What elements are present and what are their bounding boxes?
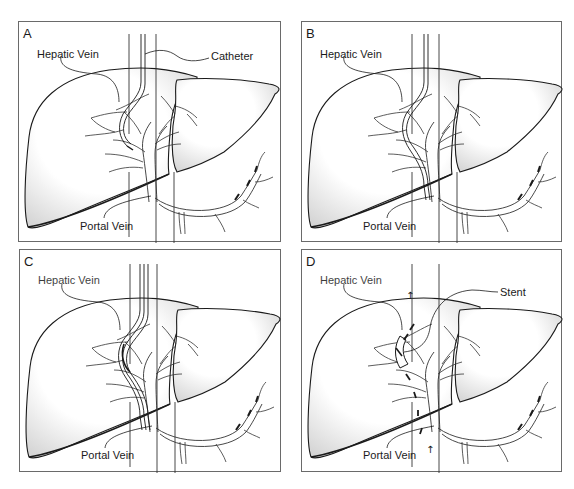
svg-text:↑: ↑ — [426, 444, 434, 455]
panel-a: A Hepatic Vein Catheter Portal Vein — [18, 21, 281, 242]
panel-letter: A — [23, 26, 32, 41]
panel-letter: D — [306, 254, 315, 269]
stent-label: Stent — [500, 286, 526, 298]
hepatic-vein-label: Hepatic Vein — [320, 274, 382, 286]
hepatic-vein-label: Hepatic Vein — [38, 274, 100, 286]
panel-b: B Hepatic Vein Portal Vein — [301, 21, 562, 242]
catheter-label: Catheter — [211, 50, 253, 62]
panel-letter: B — [306, 26, 315, 41]
svg-text:↑: ↑ — [406, 290, 414, 301]
panel-letter: C — [24, 254, 33, 269]
portal-vein-label: Portal Vein — [80, 220, 133, 232]
hepatic-vein-label: Hepatic Vein — [320, 48, 382, 60]
portal-vein-label: Portal Vein — [363, 220, 416, 232]
portal-vein-label: Portal Vein — [81, 449, 134, 461]
hepatic-vein-label: Hepatic Vein — [37, 48, 99, 60]
panel-d: ↑ ↑ D Hepatic Vein Stent Portal Vein — [301, 249, 562, 472]
portal-vein-label: Portal Vein — [363, 449, 416, 461]
panel-c: C Hepatic Vein Portal Vein — [19, 249, 281, 472]
